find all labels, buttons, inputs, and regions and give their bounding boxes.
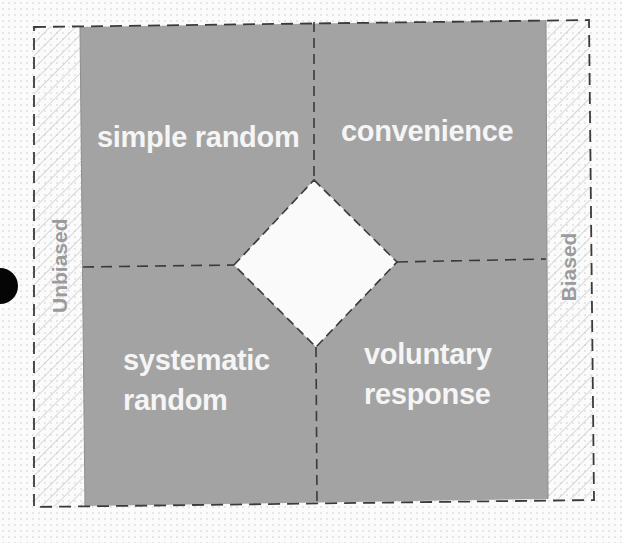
quadrant-bottom-left-line2: random bbox=[123, 380, 270, 420]
sampling-quadrant-diagram bbox=[0, 0, 622, 543]
quadrant-top-left-label: simple random bbox=[97, 117, 299, 157]
side-label-biased: Biased bbox=[557, 232, 581, 302]
side-label-unbiased: Unbiased bbox=[48, 223, 72, 313]
quadrant-top-right-label: convenience bbox=[341, 111, 513, 151]
quadrant-bottom-left-line1: systematic bbox=[123, 340, 270, 380]
quadrant-bottom-right-line2: response bbox=[364, 374, 492, 414]
quadrant-bottom-left-label: systematic random bbox=[123, 340, 270, 420]
quadrant-bottom-right-label: voluntary response bbox=[364, 334, 492, 414]
quadrant-bottom-right-line1: voluntary bbox=[364, 334, 492, 374]
